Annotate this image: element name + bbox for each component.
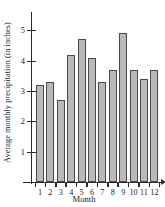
bar	[119, 33, 127, 182]
x-axis-tick	[76, 182, 77, 187]
y-axis-tick	[27, 152, 36, 153]
x-axis-tick	[66, 182, 67, 187]
y-axis-tick	[27, 121, 36, 122]
bar	[78, 39, 86, 182]
y-axis-tick	[27, 91, 36, 92]
plot-area: 12345 123456789101112	[14, 10, 165, 186]
bar	[36, 85, 44, 182]
bar	[67, 55, 75, 183]
y-axis-tick-label: 3	[14, 86, 25, 95]
y-axis-tick-label: 1	[14, 147, 25, 156]
x-axis-tick	[139, 182, 140, 187]
x-axis-tick	[45, 182, 46, 187]
x-axis-tick	[87, 182, 88, 187]
precipitation-bar-chart: Average monthly precipitation (in inches…	[0, 0, 165, 207]
bar	[88, 58, 96, 182]
bar	[109, 70, 117, 182]
x-axis-tick	[149, 182, 150, 187]
x-axis-tick	[97, 182, 98, 187]
y-axis-label: Average monthly precipitation (in inches…	[0, 0, 14, 185]
bar	[57, 100, 65, 182]
x-axis-arrow-icon	[161, 179, 165, 185]
x-axis-tick	[56, 182, 57, 187]
y-axis-tick	[27, 61, 36, 62]
bar	[130, 70, 138, 182]
bar	[46, 82, 54, 182]
y-axis-tick-label: 5	[14, 26, 25, 35]
y-axis-tick-label: 4	[14, 56, 25, 65]
bar	[150, 70, 158, 182]
x-axis-tick	[108, 182, 109, 187]
y-axis-line	[31, 12, 32, 184]
x-axis-tick	[35, 182, 36, 187]
bar	[98, 82, 106, 182]
y-axis-tick	[27, 30, 36, 31]
x-axis-label: Month	[14, 194, 154, 204]
y-axis-label-text: Average monthly precipitation (in inches…	[3, 22, 12, 163]
x-axis-tick	[128, 182, 129, 187]
x-axis-tick	[118, 182, 119, 187]
x-axis-tick	[159, 182, 160, 187]
y-axis-tick-label: 2	[14, 117, 25, 126]
bar	[140, 79, 148, 182]
